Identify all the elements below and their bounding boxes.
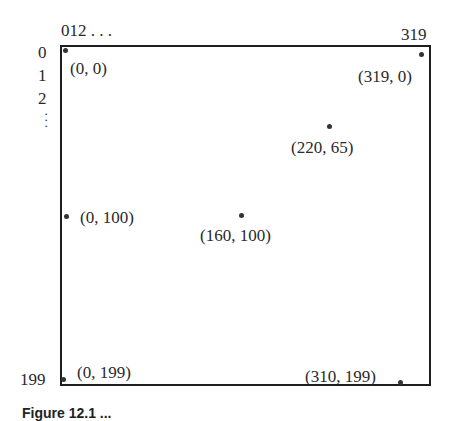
point-label-0-0: (0, 0) <box>70 60 107 77</box>
point-label-310-199: (310, 199) <box>305 368 376 385</box>
point-label-160-100: (160, 100) <box>200 227 271 244</box>
left-axis-end-tick: 199 <box>20 371 46 388</box>
left-axis-tick-2: 2 <box>38 90 47 107</box>
point-marker-160-100 <box>239 213 244 218</box>
point-label-220-65: (220, 65) <box>291 139 353 156</box>
top-axis-end-tick: 319 <box>401 26 427 43</box>
point-marker-0-100 <box>64 214 69 219</box>
left-axis-tick-1: 1 <box>38 67 47 84</box>
point-marker-310-199 <box>398 380 403 385</box>
ellipsis-dot: · <box>44 123 48 129</box>
point-marker-0-199 <box>61 377 66 382</box>
figure-caption: Figure 12.1 ... <box>22 405 111 421</box>
point-marker-319-0 <box>419 52 424 57</box>
point-marker-0-0 <box>63 48 68 53</box>
top-axis-start-ticks: 012 . . . <box>61 22 112 39</box>
point-label-319-0: (319, 0) <box>358 68 412 85</box>
left-axis-tick-0: 0 <box>38 44 47 61</box>
point-marker-220-65 <box>327 124 332 129</box>
point-label-0-100: (0, 100) <box>80 209 134 226</box>
left-axis-ellipsis: · · · <box>44 111 48 129</box>
point-label-0-199: (0, 199) <box>77 364 131 381</box>
